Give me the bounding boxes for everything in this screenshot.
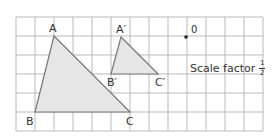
centre-of-enlargement-dot <box>184 35 188 39</box>
label-c: C <box>126 116 134 127</box>
label-a-prime: A′ <box>116 24 126 35</box>
scale-factor-note: Scale factor 1 2 <box>190 60 265 77</box>
label-a: A <box>49 23 57 34</box>
label-c-prime: C′ <box>155 77 165 88</box>
fraction-numerator: 1 <box>260 60 264 67</box>
label-b-prime: B′ <box>107 77 117 88</box>
label-o: 0 <box>191 25 197 35</box>
scale-factor-text: Scale factor <box>190 62 255 75</box>
scale-factor-fraction: 1 2 <box>259 60 265 77</box>
fraction-denominator: 2 <box>260 70 264 77</box>
label-b: B <box>26 116 34 127</box>
